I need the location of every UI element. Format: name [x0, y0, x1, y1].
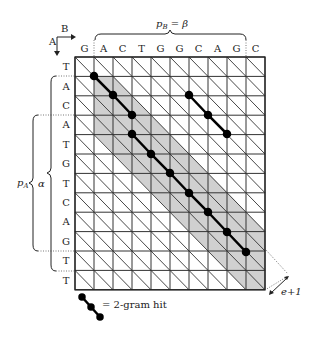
- sequence-a-char: T: [63, 61, 70, 72]
- sequence-a-char: C: [62, 100, 70, 111]
- legend-hit-icon: [80, 295, 103, 320]
- left-braces: [29, 76, 56, 271]
- left-inner-brace-label: α: [38, 178, 45, 189]
- sequence-b-char: G: [81, 43, 89, 54]
- sequence-a-char: T: [63, 139, 70, 150]
- sequence-b-char: C: [252, 43, 260, 54]
- sequence-a-char: C: [62, 197, 70, 208]
- sequence-b-char: C: [195, 43, 203, 54]
- legend-text: = 2-gram hit: [102, 299, 167, 310]
- sequence-a-char: A: [61, 119, 70, 130]
- sequence-b-char: A: [213, 43, 222, 54]
- sequence-a-char: G: [62, 236, 70, 247]
- sequence-a-char: G: [62, 158, 70, 169]
- axis-arrows: [54, 34, 76, 56]
- top-brace: [95, 30, 246, 40]
- sequence-b-char: C: [119, 43, 127, 54]
- axis-b-label: B: [61, 23, 68, 34]
- sequence-a-char: T: [63, 275, 70, 286]
- sequence-b-labels: GACTGGCAGC: [81, 43, 260, 54]
- sequence-a-char: T: [63, 178, 70, 189]
- sequence-b-char: G: [176, 43, 184, 54]
- sequence-b-char: G: [233, 43, 241, 54]
- sequence-b-char: G: [157, 43, 165, 54]
- sequence-a-char: A: [61, 216, 70, 227]
- left-outer-brace-label: pA: [17, 177, 28, 190]
- top-brace-label: pB = β: [156, 18, 188, 31]
- sequence-b-char: A: [99, 43, 108, 54]
- sequence-b-char: T: [138, 43, 145, 54]
- sequence-a-char: A: [61, 81, 70, 92]
- band-width-label: e+1: [281, 286, 302, 297]
- axis-a-label: A: [48, 36, 57, 47]
- sequence-a-labels: TACATGTCAGTT: [61, 61, 70, 285]
- diagram: A B pB = β GACTGGCAGC TACATGTCAGTT pA α: [0, 0, 320, 337]
- sequence-a-char: T: [63, 255, 70, 266]
